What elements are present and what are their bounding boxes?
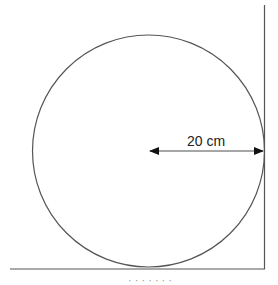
radius-label: 20 cm [187, 133, 225, 149]
cropped-caption-fragment: · · · · · · · [128, 274, 172, 285]
diagram-canvas: 20 cm · · · · · · · [0, 0, 278, 285]
